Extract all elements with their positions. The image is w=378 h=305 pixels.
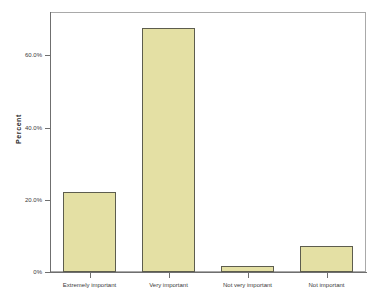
y-axis-tick <box>45 200 50 201</box>
x-axis-line <box>50 272 367 273</box>
y-axis-tick-label: 60.0% <box>25 52 42 58</box>
x-axis-tick <box>169 273 170 278</box>
x-axis-tick-label: Extremely important <box>50 281 129 289</box>
y-axis-tick-label: 20.0% <box>25 197 42 203</box>
bar <box>63 192 116 272</box>
bar-chart: Percent 0%20.0%40.0%60.0% Extremely impo… <box>0 0 378 305</box>
x-axis-tick <box>327 273 328 278</box>
y-axis-tick <box>45 272 50 273</box>
y-axis-tick-label: 40.0% <box>25 125 42 131</box>
x-axis-tick-label: Very important <box>129 281 208 289</box>
bar <box>221 266 274 272</box>
y-axis-tick <box>45 55 50 56</box>
x-axis-tick <box>90 273 91 278</box>
x-axis-tick-label: Not important <box>287 281 366 289</box>
y-axis-tick <box>45 128 50 129</box>
x-axis-tick-label: Not very important <box>208 281 287 289</box>
y-axis-line <box>50 12 51 273</box>
bar <box>300 246 353 272</box>
x-axis-tick <box>248 273 249 278</box>
y-axis-tick-label: 0% <box>33 269 42 275</box>
bar <box>142 28 195 272</box>
